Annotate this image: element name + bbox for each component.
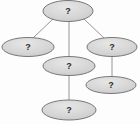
node-lower-right-node[interactable]: ?: [86, 77, 136, 94]
node-label: ?: [65, 6, 71, 16]
graph-svg: ??????: [0, 0, 140, 124]
nodes-layer: ??????: [2, 1, 137, 121]
node-label: ?: [109, 42, 115, 52]
edge-root-to-right: [84, 19, 104, 38]
edge-root-to-left: [33, 19, 53, 38]
diagram-canvas: ??????: [0, 0, 140, 124]
node-middle-node[interactable]: ?: [43, 57, 95, 76]
node-label: ?: [108, 80, 114, 90]
node-label: ?: [66, 105, 72, 115]
node-label: ?: [25, 42, 31, 52]
node-label: ?: [66, 61, 72, 71]
node-bottom-node[interactable]: ?: [42, 100, 96, 120]
node-right-node[interactable]: ?: [87, 38, 137, 57]
node-left-node[interactable]: ?: [2, 38, 54, 57]
node-root-node[interactable]: ?: [43, 1, 93, 22]
